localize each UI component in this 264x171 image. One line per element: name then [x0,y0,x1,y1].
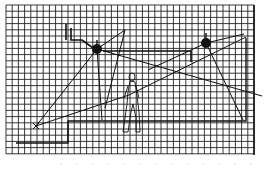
graph-paper-grid [6,5,254,154]
grid-diagram [0,0,264,171]
caption-text: · · · · · · · · · · · · · [60,160,260,170]
